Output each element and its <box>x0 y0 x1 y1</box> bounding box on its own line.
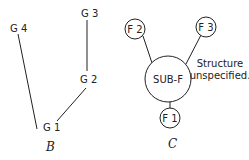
diagram-c: SUB-F F 2 F 3 F 1 Structure unspecified.… <box>125 17 249 151</box>
node-g2: G 2 <box>80 74 97 85</box>
node-f2: F 2 <box>127 24 142 35</box>
caption-c: C <box>168 137 177 151</box>
note-line-1: Structure <box>197 58 244 69</box>
note-line-2: unspecified. <box>190 70 249 81</box>
node-subf: SUB-F <box>153 74 183 85</box>
node-g3: G 3 <box>81 8 98 19</box>
caption-b: B <box>45 140 55 154</box>
node-f1: F 1 <box>162 113 177 124</box>
node-g1: G 1 <box>43 122 60 133</box>
node-g4: G 4 <box>10 23 27 34</box>
edge-g4-g1 <box>18 34 37 129</box>
diagram-b: G 4 G 3 G 2 G 1 B <box>10 8 98 154</box>
node-f3: F 3 <box>198 22 213 33</box>
diagram-canvas: G 4 G 3 G 2 G 1 B SUB-F F 2 F 3 F 1 Stru… <box>0 0 249 160</box>
edge-f2-subf <box>143 36 152 63</box>
edge-g2-g1 <box>57 88 86 121</box>
